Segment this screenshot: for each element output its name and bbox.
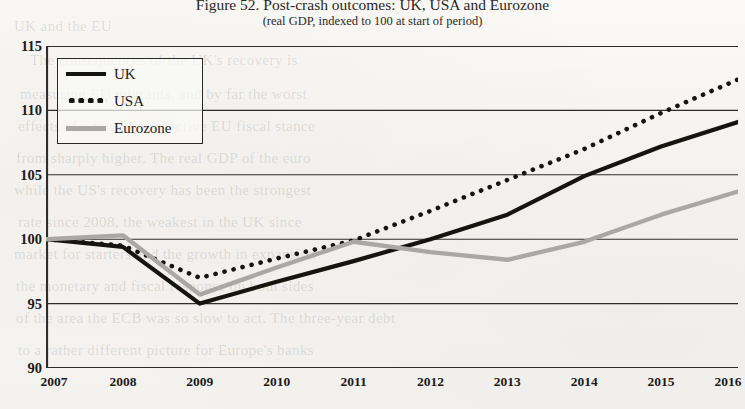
x-axis-tick-label: 2008 <box>109 374 136 390</box>
y-axis-tick-label: 110 <box>21 102 42 119</box>
legend-label-eurozone: Eurozone <box>114 121 171 136</box>
x-axis-tick-label: 2016 <box>715 374 742 390</box>
legend-item-uk: UK <box>66 63 136 85</box>
y-axis-tick-label: 105 <box>20 166 42 183</box>
chart-legend: UK USA Eurozone <box>57 58 203 144</box>
x-axis-tick-label: 2015 <box>648 374 675 390</box>
legend-key-uk-line-icon <box>66 67 106 81</box>
series-line-eurozone <box>46 192 738 295</box>
figure-subtitle: (real GDP, indexed to 100 at start of pe… <box>0 14 745 29</box>
series-line-uk <box>46 122 738 304</box>
x-axis-tick-label: 2012 <box>417 374 444 390</box>
legend-key-usa-dotted-icon <box>66 94 106 108</box>
y-axis-tick-label: 115 <box>21 38 42 55</box>
legend-key-eurozone-line-icon <box>66 121 106 135</box>
x-axis-tick-label: 2013 <box>494 374 521 390</box>
x-axis-tick-label: 2007 <box>41 374 68 390</box>
x-axis-labels: 2007200820092010201120122013201420152016 <box>46 372 738 396</box>
legend-label-usa: USA <box>114 94 144 109</box>
figure-title: Figure 52. Post-crash outcomes: UK, USA … <box>0 0 745 14</box>
legend-label-uk: UK <box>114 67 136 82</box>
x-axis-tick-label: 2014 <box>571 374 598 390</box>
y-axis-tick-label: 95 <box>28 295 43 312</box>
x-axis-tick-label: 2011 <box>340 374 366 390</box>
legend-item-usa: USA <box>66 90 144 112</box>
x-axis-tick-label: 2009 <box>186 374 213 390</box>
y-axis-tick-label: 100 <box>20 231 42 248</box>
x-axis-tick-label: 2010 <box>263 374 290 390</box>
y-axis-labels: 1151101051009590 <box>0 46 42 368</box>
legend-item-eurozone: Eurozone <box>66 117 171 139</box>
